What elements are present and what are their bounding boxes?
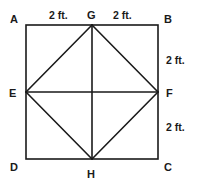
dimension-bf: 2 ft. <box>166 54 185 66</box>
dimension-fc: 2 ft. <box>166 121 185 133</box>
label-a: A <box>10 13 18 25</box>
label-c: C <box>164 161 172 173</box>
segment-ge <box>26 25 92 92</box>
label-e: E <box>9 87 16 99</box>
label-f: F <box>166 87 173 99</box>
dimension-ag: 2 ft. <box>49 9 68 21</box>
label-g: G <box>87 9 96 21</box>
label-b: B <box>164 13 172 25</box>
segment-hf <box>92 92 158 159</box>
segment-fg <box>92 25 158 92</box>
diagram-canvas: A B C D G H E F 2 ft. 2 ft. 2 ft. 2 ft. <box>0 0 197 186</box>
dimension-gb: 2 ft. <box>113 9 132 21</box>
label-d: D <box>10 161 18 173</box>
segment-eh <box>26 92 92 159</box>
label-h: H <box>87 168 95 180</box>
